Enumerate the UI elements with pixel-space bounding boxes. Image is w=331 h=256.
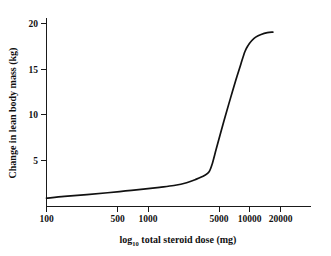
y-axis-ticks xyxy=(41,24,47,161)
x-tick-label-5000: 5000 xyxy=(210,214,229,224)
x-axis-title-main: log xyxy=(120,234,133,245)
y-tick-label-15: 15 xyxy=(29,65,39,75)
chart-figure: 20 15 10 5 100 500 1000 5000 10000 20000… xyxy=(0,0,331,256)
x-tick-label-1000: 1000 xyxy=(139,214,158,224)
y-tick-label-10: 10 xyxy=(29,110,39,120)
x-tick-label-100: 100 xyxy=(39,214,54,224)
y-tick-label-20: 20 xyxy=(29,19,39,29)
x-axis-title-rest: total steroid dose (mg) xyxy=(139,234,237,246)
x-tick-label-20000: 20000 xyxy=(269,214,293,224)
line-chart: 20 15 10 5 100 500 1000 5000 10000 20000… xyxy=(0,0,331,256)
y-axis-title: Change in lean body mass (kg) xyxy=(7,48,19,179)
x-axis-title: log10 total steroid dose (mg) xyxy=(120,234,237,247)
x-tick-label-10000: 10000 xyxy=(238,214,262,224)
x-axis-ticks xyxy=(47,207,281,213)
x-tick-label-500: 500 xyxy=(110,214,125,224)
data-curve-lean-body-mass xyxy=(47,32,273,198)
y-tick-label-5: 5 xyxy=(33,156,38,166)
